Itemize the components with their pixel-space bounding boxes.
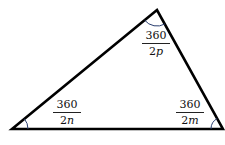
denominator: 2p — [136, 44, 176, 58]
numerator: 360 — [142, 29, 170, 44]
numerator: 360 — [53, 98, 81, 113]
angle-label-top: 360 2p — [136, 29, 176, 58]
denominator: 2n — [47, 113, 87, 127]
angle-arc-bottom-left — [24, 119, 28, 129]
angle-label-bottom-right: 360 2m — [170, 98, 210, 127]
denominator: 2m — [170, 113, 210, 127]
numerator: 360 — [176, 98, 204, 113]
angle-label-bottom-left: 360 2n — [47, 98, 87, 127]
angle-arc-bottom-right — [211, 119, 217, 130]
